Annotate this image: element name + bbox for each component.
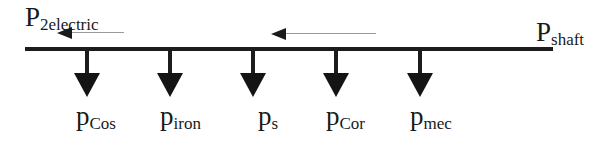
- loss-subscript: Cor: [340, 114, 366, 133]
- down-arrow-icon: [323, 73, 349, 97]
- flow-arrow-left-line: [70, 32, 124, 33]
- loss-symbol: p: [160, 101, 174, 131]
- down-arrow-icon: [240, 73, 266, 97]
- loss-label-s: ps: [258, 103, 278, 132]
- down-arrow-icon: [157, 73, 183, 97]
- loss-symbol: p: [410, 101, 424, 131]
- flow-arrow-center-icon: [271, 28, 286, 40]
- down-arrow-icon: [74, 73, 100, 97]
- flow-arrow-center-line: [284, 33, 376, 34]
- loss-label-cor: pCor: [326, 103, 365, 132]
- loss-symbol: p: [326, 101, 340, 131]
- loss-subscript: s: [272, 114, 279, 133]
- input-symbol: P: [536, 17, 551, 47]
- power-line: [25, 47, 553, 51]
- loss-arrow-stem-mec: [418, 51, 422, 75]
- loss-label-mec: pmec: [410, 103, 452, 132]
- loss-arrow-stem-iron: [168, 51, 172, 75]
- flow-arrow-left-icon: [57, 27, 72, 39]
- loss-label-iron: piron: [160, 103, 201, 132]
- loss-symbol: p: [258, 101, 272, 131]
- loss-label-cos: pCos: [76, 103, 116, 132]
- loss-arrow-stem-cor: [334, 51, 338, 75]
- power-flow-diagram: P2electric Pshaft pCos piron ps pCor pme…: [0, 0, 601, 144]
- loss-arrow-stem-s: [251, 51, 255, 75]
- output-symbol: P: [25, 2, 40, 32]
- input-label-pshaft: Pshaft: [536, 19, 584, 48]
- loss-arrow-stem-cos: [85, 51, 89, 75]
- loss-subscript: Cos: [90, 114, 116, 133]
- loss-subscript: mec: [424, 114, 452, 133]
- down-arrow-icon: [407, 73, 433, 97]
- loss-symbol: p: [76, 101, 90, 131]
- loss-subscript: iron: [174, 114, 201, 133]
- input-subscript: shaft: [551, 30, 584, 49]
